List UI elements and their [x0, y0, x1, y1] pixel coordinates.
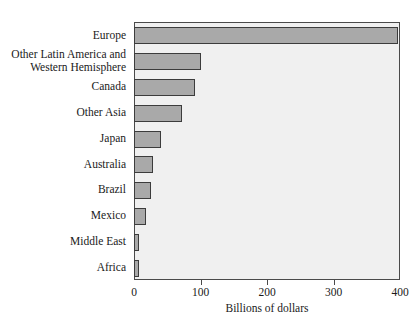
bar — [134, 105, 182, 122]
bar — [134, 79, 195, 96]
bar-row — [135, 23, 399, 49]
x-tick-label: 100 — [192, 286, 209, 298]
bar-row — [135, 255, 399, 281]
bar-row — [135, 178, 399, 204]
bar — [134, 260, 139, 277]
bar — [134, 131, 161, 148]
bar-row — [135, 126, 399, 152]
cropped-caption-text — [0, 0, 420, 7]
bar-row — [135, 152, 399, 178]
category-label: Other Latin America and Western Hemisphe… — [0, 48, 130, 74]
bar-row — [135, 75, 399, 101]
bar — [134, 53, 201, 70]
category-label: Other Asia — [0, 99, 130, 125]
x-tick-mark — [334, 280, 335, 285]
bar — [134, 234, 139, 251]
bar-chart-figure: EuropeOther Latin America and Western He… — [0, 0, 420, 323]
bar — [134, 27, 398, 44]
category-label: Mexico — [0, 203, 130, 229]
bar-row — [135, 49, 399, 75]
category-label: Canada — [0, 74, 130, 100]
bar-row — [135, 100, 399, 126]
bar — [134, 156, 153, 173]
category-label: Brazil — [0, 177, 130, 203]
bar-row — [135, 229, 399, 255]
bar — [134, 208, 146, 225]
x-axis-title: Billions of dollars — [134, 302, 400, 314]
x-tick-label: 200 — [258, 286, 275, 298]
category-axis-labels: EuropeOther Latin America and Western He… — [0, 22, 130, 280]
category-label: Australia — [0, 151, 130, 177]
category-label: Japan — [0, 125, 130, 151]
plot-area — [134, 22, 400, 280]
x-tick-label: 0 — [131, 286, 137, 298]
bar — [134, 182, 151, 199]
bar-row — [135, 204, 399, 230]
category-label: Europe — [0, 22, 130, 48]
x-tick-mark — [267, 280, 268, 285]
x-tick-label: 300 — [325, 286, 342, 298]
category-label: Africa — [0, 254, 130, 280]
category-label: Middle East — [0, 228, 130, 254]
x-tick-label: 400 — [391, 286, 408, 298]
x-tick-mark — [201, 280, 202, 285]
